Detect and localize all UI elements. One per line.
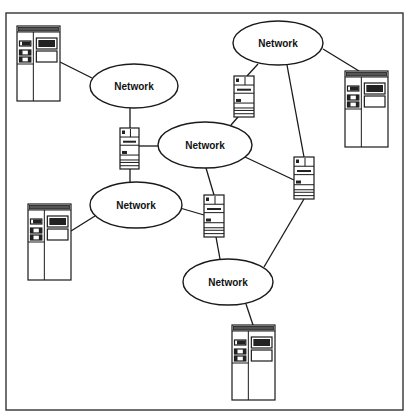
workstation-4 — [232, 325, 275, 400]
network-label: Network — [208, 277, 248, 288]
network-label: Network — [114, 81, 154, 92]
link-net-center-to-router-4 — [206, 168, 214, 195]
link-net-bottom-to-workstation-4 — [246, 304, 253, 325]
link-net-center-to-router-2 — [231, 117, 238, 125]
link-router-4-to-net-bottom — [216, 237, 220, 259]
link-net-top-right-to-workstation-2 — [323, 49, 359, 71]
router-1 — [120, 128, 139, 169]
net-center: Network — [158, 122, 252, 168]
network-diagram: NetworkNetworkNetworkNetworkNetwork — [0, 0, 414, 419]
workstations-layer — [17, 26, 388, 400]
router-4 — [204, 195, 224, 237]
router-3 — [294, 157, 314, 199]
link-net-center-to-router-3 — [245, 157, 294, 180]
net-top-right: Network — [233, 21, 323, 65]
network-label: Network — [258, 38, 298, 49]
link-net-top-right-to-router-3 — [287, 65, 304, 157]
net-left: Network — [90, 182, 182, 228]
link-net-left-to-workstation-3 — [71, 216, 95, 231]
net-bottom: Network — [183, 259, 273, 305]
workstation-2 — [345, 71, 388, 147]
router-2 — [234, 76, 254, 117]
workstation-3 — [28, 204, 71, 280]
link-net-left-to-router-4 — [180, 208, 204, 215]
link-router-2-to-net-top-right — [247, 64, 258, 76]
network-label: Network — [116, 200, 156, 211]
network-label: Network — [185, 140, 225, 151]
net-top-left: Network — [90, 64, 178, 108]
link-workstation-1-to-net-top-left — [60, 62, 92, 78]
link-router-3-to-net-bottom — [264, 199, 304, 267]
workstation-1 — [17, 26, 60, 101]
